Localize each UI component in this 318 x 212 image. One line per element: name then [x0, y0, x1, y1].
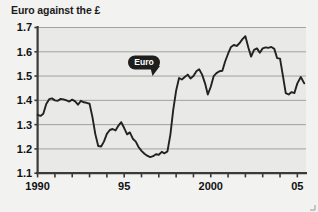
x-axis-tick-labels: 199095200005: [25, 180, 303, 192]
x-tick-label: 05: [291, 180, 303, 192]
corner-fold-mark: [309, 204, 316, 211]
x-tick-label: 2000: [199, 180, 223, 192]
line-chart-plot: 1.71.61.51.41.31.21.1 199095200005 Euro: [0, 0, 318, 212]
x-tick-label: 1990: [25, 180, 49, 192]
chart-container: Euro against the £ 1.71.61.51.41.31.21.1…: [0, 0, 318, 212]
y-tick-label: 1.4: [17, 94, 33, 106]
callout-label: Euro: [134, 57, 154, 67]
y-tick-label: 1.6: [17, 46, 32, 58]
y-tick-label: 1.7: [17, 21, 32, 33]
y-tick-label: 1.1: [17, 167, 32, 179]
y-tick-label: 1.2: [17, 143, 32, 155]
y-axis-tick-labels: 1.71.61.51.41.31.21.1: [17, 21, 33, 179]
y-tick-label: 1.3: [17, 119, 32, 131]
y-tick-label: 1.5: [17, 70, 32, 82]
x-tick-label: 95: [118, 180, 130, 192]
